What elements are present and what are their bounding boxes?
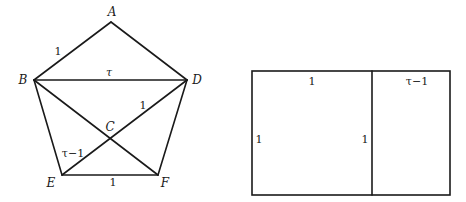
- edge-be: [34, 80, 62, 175]
- vertex-label-a: A: [107, 5, 117, 19]
- edge-bf: [34, 80, 158, 175]
- golden-rectangle-labels: 1τ−111: [256, 75, 429, 146]
- edge-ab: [34, 22, 111, 80]
- edge-length-label: τ−1: [62, 147, 84, 160]
- pentagon-vertex-labels: ABDCEF: [18, 5, 203, 190]
- edge-df: [158, 80, 187, 175]
- vertex-label-b: B: [18, 73, 28, 87]
- pentagon-edge-labels: 1τ1τ−11: [55, 45, 147, 189]
- rectangle-side-label: 1: [309, 75, 316, 88]
- edge-de: [62, 80, 187, 175]
- rectangle-side-label: 1: [362, 133, 369, 146]
- outer-rectangle: [252, 71, 450, 195]
- edge-length-label: 1: [110, 176, 117, 189]
- edge-length-label: 1: [55, 45, 62, 58]
- golden-rectangle: [252, 71, 450, 195]
- rectangle-side-label: τ−1: [406, 75, 428, 88]
- edge-ad: [111, 22, 187, 80]
- golden-ratio-figure: ABDCEF 1τ1τ−11 1τ−111: [0, 0, 466, 202]
- vertex-label-e: E: [46, 176, 56, 190]
- edge-length-label: 1: [140, 99, 147, 112]
- vertex-label-f: F: [160, 176, 170, 190]
- vertex-label-d: D: [191, 73, 202, 87]
- edge-length-label: τ: [106, 66, 113, 79]
- rectangle-side-label: 1: [256, 133, 263, 146]
- vertex-label-c: C: [105, 120, 114, 134]
